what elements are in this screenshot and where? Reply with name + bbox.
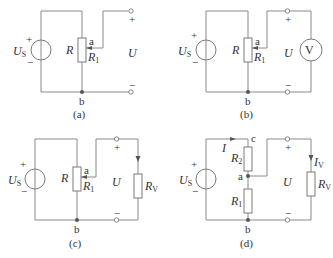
source-label-a: US (13, 44, 26, 59)
source-plus-c: + (20, 158, 26, 170)
node-a-dot-d (246, 174, 250, 178)
output-minus-c: − (114, 207, 120, 219)
source-minus-c: − (21, 185, 27, 197)
node-a-label-d: a (238, 170, 243, 182)
current-arrow-c (136, 156, 141, 162)
node-b-label-b: b (245, 95, 251, 107)
source-minus-b: − (192, 56, 198, 68)
wire-load-bottom-c (119, 198, 138, 220)
resistor-label-c: R (60, 171, 69, 185)
voltmeter-label-b: V (305, 43, 314, 57)
current-arrow-iv-d (309, 155, 314, 161)
output-minus-d: − (285, 207, 291, 219)
potentiometer-b (244, 38, 252, 62)
caption-c: (c) (69, 237, 82, 250)
output-plus-b: + (285, 13, 291, 25)
node-b-label-d: b (245, 223, 251, 235)
tap-label-b: a (255, 35, 260, 47)
output-label-b: U (284, 46, 294, 60)
output-plus-c: + (114, 141, 120, 153)
resistor-label-b: R (231, 43, 240, 57)
node-b-dot-c (75, 218, 79, 222)
circuit-c: + − US R a R1 + − U RV b (c) (8, 137, 158, 250)
wire-top-a (41, 11, 82, 40)
resistor-label-a: R (65, 43, 74, 57)
resistor-r1-d (244, 189, 252, 213)
output-minus-a: − (129, 79, 135, 91)
wire-meter-bottom-b (290, 61, 311, 92)
output-label-d: U (283, 175, 293, 189)
part-label-a: R1 (87, 50, 99, 65)
node-b-dot-d (246, 218, 250, 222)
wire-bottom-c (35, 189, 114, 220)
node-b-dot-a (80, 90, 84, 94)
output-plus-a: + (129, 13, 135, 25)
load-current-label-d: IV (313, 155, 324, 170)
wire-top-c (35, 139, 77, 169)
node-b-dot-b (246, 90, 250, 94)
current-arrow-i-d (230, 137, 236, 141)
wire-tap-d (248, 139, 285, 176)
wire-load-top-d (290, 139, 311, 172)
source-label-c: US (8, 173, 21, 188)
output-minus-b: − (285, 79, 291, 91)
caption-a: (a) (73, 108, 86, 121)
output-label-c: U (112, 175, 122, 189)
load-resistor-c (134, 174, 142, 198)
source-minus-d: − (192, 185, 198, 197)
tap-label-a: a (89, 35, 94, 47)
circuit-a: + − US R a R1 + − U b (a) (13, 9, 138, 121)
output-label-a: U (128, 46, 138, 60)
r2-label-d: R2 (230, 151, 242, 166)
wire-meter-top-b (290, 11, 311, 39)
source-label-d: US (179, 173, 192, 188)
circuit-figure: + − US R a R1 + − U b (a) V + − US R a R… (0, 0, 333, 258)
wire-top-b (206, 11, 248, 40)
load-resistor-d (307, 172, 315, 196)
source-label-b: US (178, 44, 191, 59)
node-b-label-c: b (74, 223, 80, 235)
part-label-c: R1 (82, 179, 94, 194)
wire-bottom-a (41, 60, 131, 92)
current-label-d: I (221, 141, 227, 155)
part-label-b: R1 (253, 50, 265, 65)
source-plus-d: + (191, 158, 197, 170)
source-minus-a: − (27, 56, 33, 68)
circuit-d: I c R2 a R1 + − US + − U IV RV b (d) (179, 132, 331, 250)
node-b-label-a: b (79, 95, 85, 107)
load-label-d: RV (317, 177, 331, 192)
circuit-b: V + − US R a R1 + − U b (b) (178, 9, 322, 121)
caption-b: (b) (240, 108, 253, 121)
load-label-c: RV (144, 179, 158, 194)
r1-label-d: R1 (230, 194, 242, 209)
source-plus-a: + (26, 33, 32, 45)
node-c-label-d: c (251, 132, 256, 144)
source-plus-b: + (191, 29, 197, 41)
wire-load-bottom-d (290, 196, 311, 220)
output-plus-d: + (285, 141, 291, 153)
wire-load-top-c (119, 139, 138, 174)
potentiometer-a (78, 38, 86, 62)
potentiometer-c (73, 167, 81, 191)
resistor-r2-d (244, 147, 252, 171)
wire-bottom-b (206, 60, 285, 92)
caption-d: (d) (240, 237, 253, 250)
tap-label-c: a (84, 164, 89, 176)
